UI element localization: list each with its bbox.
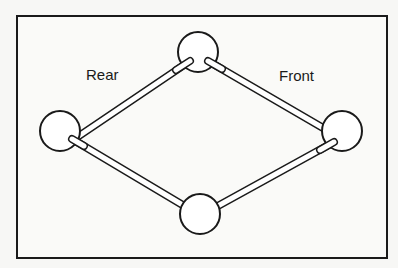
node-left (40, 111, 80, 151)
diagram-canvas (0, 0, 398, 268)
front-label: Front (279, 67, 314, 84)
node-bottom (180, 194, 220, 234)
rear-label: Rear (86, 66, 119, 83)
